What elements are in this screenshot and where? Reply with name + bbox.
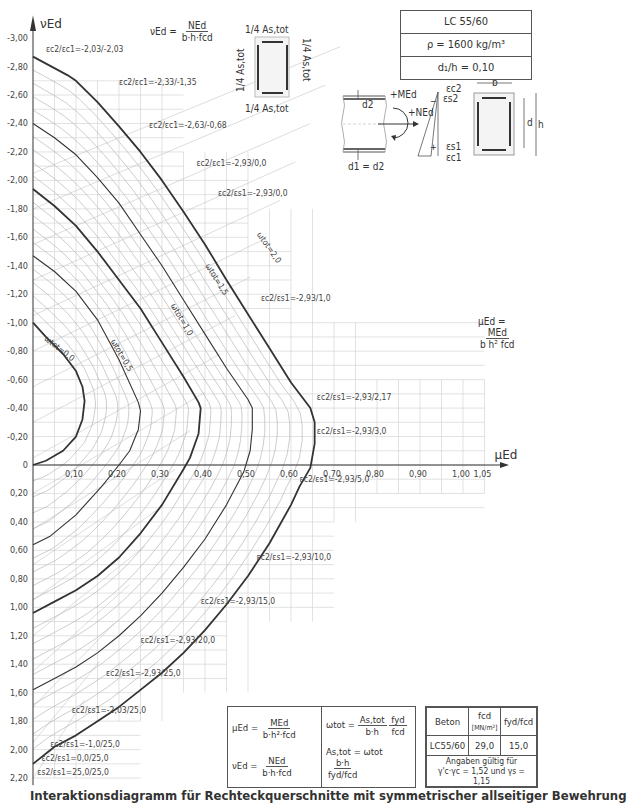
spec-concrete: LC 55/60: [401, 11, 531, 34]
svg-text:1,80: 1,80: [10, 716, 28, 726]
svg-text:0,10: 0,10: [65, 469, 83, 479]
strain-label: εc2/εs1=-2,93/1,0: [261, 293, 331, 303]
strain-label: εc2/εs1=-1,0/25,0: [50, 739, 120, 749]
svg-text:εc1: εc1: [446, 152, 462, 163]
formula-box: μEd = MEdb·h²·fcd νEd = NEdb·h·fcd ωtot …: [227, 706, 416, 788]
strain-label: εc2/εs1=0,0/25,0: [42, 753, 109, 763]
svg-text:-0,40: -0,40: [7, 403, 28, 413]
svg-text:0,20: 0,20: [108, 469, 126, 479]
header-fcd: fcd[MN/m²]: [469, 708, 501, 736]
cell-fcd: 29,0: [469, 735, 501, 755]
nu-formula-header: νEd = NEd b·h·fcd: [150, 20, 215, 43]
svg-text:+MEd: +MEd: [390, 89, 417, 100]
svg-text:-2,00: -2,00: [7, 175, 28, 185]
header-fyd-fcd: fyd/fcd: [501, 708, 537, 736]
strain-label: εc2/εs1=-2,93/3,0: [317, 426, 387, 436]
moment-arrow-icon: [393, 108, 408, 138]
x-axis-arrow-icon: [500, 462, 509, 468]
spec-ratio: d₁/h = 0,10: [401, 57, 531, 79]
svg-text:1/4 As,tot: 1/4 As,tot: [245, 24, 289, 35]
section-outline-right: [474, 93, 514, 155]
svg-text:0,30: 0,30: [151, 469, 169, 479]
omega-curve-4: [33, 57, 315, 764]
strain-label: εc2/εs1=-2,93/20,0: [141, 635, 216, 645]
svg-text:+: +: [430, 142, 437, 152]
mu-formula-side: μEd = MEd b h² fcd: [478, 316, 544, 350]
strain-label: εs2/εs1=25,0/25,0: [37, 767, 109, 777]
validity-note: Angaben gültig für γ'c·γc = 1,52 und γs …: [427, 756, 537, 787]
strain-label: εc2/εs1=-2,93/10,0: [257, 552, 332, 562]
svg-text:1/4 As,tot: 1/4 As,tot: [245, 103, 289, 114]
svg-text:0: 0: [23, 460, 28, 470]
svg-text:-1,20: -1,20: [7, 289, 28, 299]
as-formula: As,tot = ωtot b·hfyd/fcd: [326, 746, 411, 780]
svg-text:1,00: 1,00: [10, 602, 28, 612]
strain-label: εc2/εs1=-2,93/25,0: [106, 668, 181, 678]
svg-text:-1,00: -1,00: [7, 318, 28, 328]
cell-fyd-fcd: 15,0: [501, 735, 537, 755]
svg-text:0,50: 0,50: [237, 469, 255, 479]
omega-curve-1: [33, 256, 141, 545]
strain-annotations: εc2/εc1=-2,03/-2,03εc2/εc1=-2,33/-1,35εc…: [37, 44, 391, 777]
svg-text:d: d: [527, 117, 533, 128]
svg-text:-2,40: -2,40: [7, 118, 28, 128]
svg-text:-1,60: -1,60: [7, 232, 28, 242]
x-axis-label: μEd: [495, 448, 518, 462]
strain-label: εc2/εs1=-2,93/0,0: [218, 188, 288, 198]
svg-text:0,20: 0,20: [10, 488, 28, 498]
strain-label: εc2/εs1=-2,93/15,0: [201, 596, 276, 606]
concrete-table: Beton fcd[MN/m²] fyd/fcd LC55/60 29,0 15…: [425, 706, 538, 788]
svg-text:1,00: 1,00: [452, 469, 470, 479]
svg-text:-0,20: -0,20: [7, 432, 28, 442]
svg-text:0,80: 0,80: [10, 574, 28, 584]
header-beton: Beton: [427, 708, 469, 736]
axes: νEdμEd: [30, 15, 517, 785]
y-axis-arrow-icon: [30, 15, 36, 31]
strain-label: εc2/εs1=-2,93/5,0: [300, 474, 370, 484]
svg-text:+NEd: +NEd: [408, 107, 434, 118]
section-outline: [255, 37, 289, 97]
svg-text:-2,80: -2,80: [7, 62, 28, 72]
strain-label: εc2/εc1=-2,03/-2,03: [46, 44, 124, 54]
svg-text:d1 = d2: d1 = d2: [348, 161, 384, 172]
svg-text:0,60: 0,60: [280, 469, 298, 479]
svg-text:2,20: 2,20: [10, 773, 28, 783]
svg-text:-3,00: -3,00: [7, 33, 28, 43]
strain-label: εc2/εs1=-2,03/25,0: [72, 705, 147, 715]
svg-text:−: −: [430, 96, 437, 106]
helper-curves: [33, 47, 340, 778]
svg-text:2,00: 2,00: [10, 745, 28, 755]
y-axis-label: νEd: [40, 17, 62, 31]
svg-text:1,05: 1,05: [473, 469, 491, 479]
svg-text:-1,80: -1,80: [7, 204, 28, 214]
svg-text:εs1: εs1: [446, 141, 461, 152]
svg-text:-2,20: -2,20: [7, 147, 28, 157]
svg-text:1/4 As,tot: 1/4 As,tot: [235, 48, 246, 92]
svg-text:1,60: 1,60: [10, 688, 28, 698]
strain-label: εc2/εs1=-2,93/2,17: [317, 392, 392, 402]
svg-text:-2,60: -2,60: [7, 90, 28, 100]
svg-text:-0,60: -0,60: [7, 375, 28, 385]
svg-text:d2: d2: [362, 99, 373, 110]
svg-text:0,40: 0,40: [194, 469, 212, 479]
figure-caption: Interaktionsdiagramm für Rechteckquersch…: [30, 788, 627, 803]
cell-concrete: LC55/60: [427, 735, 469, 755]
svg-text:-1,40: -1,40: [7, 261, 28, 271]
svg-text:1,40: 1,40: [10, 659, 28, 669]
svg-text:0,40: 0,40: [10, 517, 28, 527]
svg-text:1/4 As,tot: 1/4 As,tot: [301, 38, 312, 82]
strain-label: εc2/εc1=-2,93/0,0: [196, 158, 266, 168]
omega-formula: ωtot = As,totb·h fydfcd: [326, 714, 411, 737]
grid-lines: [33, 81, 485, 778]
mu-formula: μEd = MEdb·h²·fcd: [232, 717, 317, 740]
svg-text:h: h: [538, 119, 544, 130]
strain-label: εc2/εc1=-2,33/-1,35: [119, 77, 197, 87]
svg-text:1,20: 1,20: [10, 631, 28, 641]
nu-formula: νEd = NEdb·h·fcd: [232, 755, 317, 778]
spec-box: LC 55/60 ρ = 1600 kg/m³ d₁/h = 0,10: [400, 10, 532, 80]
svg-text:0,90: 0,90: [409, 469, 427, 479]
strain-label: εc2/εc1=-2,63/-0,68: [149, 120, 227, 130]
omega-curves: [33, 57, 315, 764]
svg-text:0,60: 0,60: [10, 545, 28, 555]
